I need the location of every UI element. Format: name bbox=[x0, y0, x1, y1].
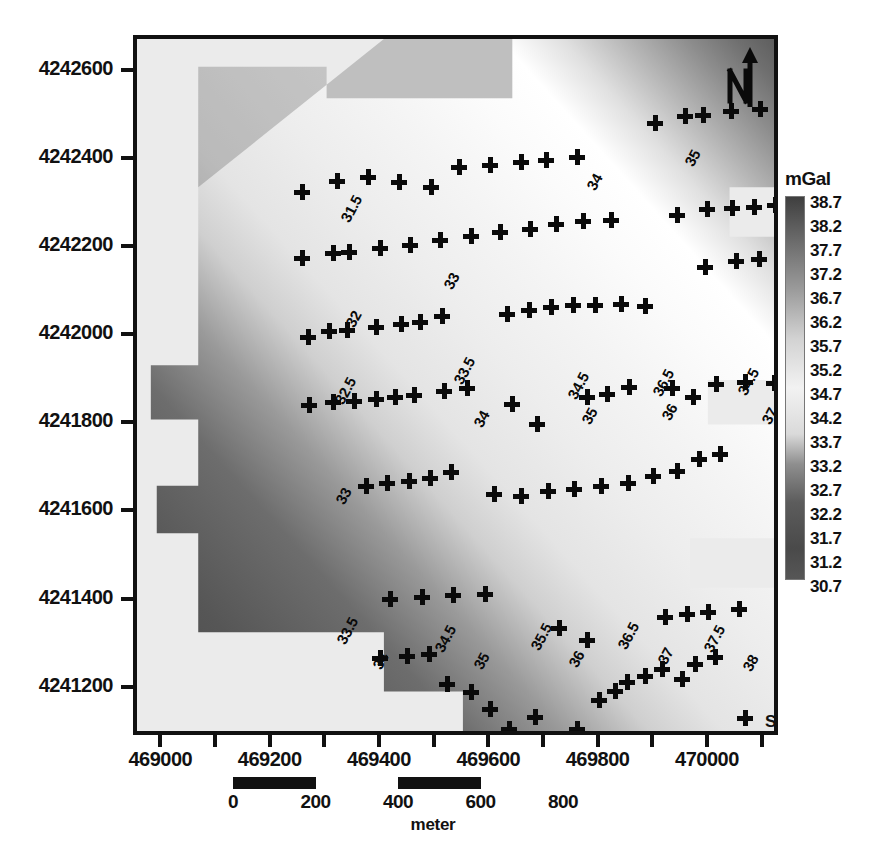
colorbar-gradient-swatch bbox=[785, 196, 805, 580]
y-axis-tick bbox=[121, 597, 133, 601]
x-axis-tick bbox=[760, 735, 764, 747]
scale-bar-unit: meter bbox=[383, 815, 483, 835]
colorbar-tick-label: 32.2 bbox=[810, 503, 870, 527]
y-axis-tick bbox=[121, 68, 133, 72]
x-axis-tick-label: 469800 bbox=[538, 748, 658, 771]
colorbar-tick-label: 36.2 bbox=[810, 311, 870, 335]
y-axis-tick bbox=[121, 508, 133, 512]
y-axis-tick-label: 4241600 bbox=[39, 497, 113, 520]
north-arrow-icon bbox=[720, 41, 766, 111]
y-axis-tick bbox=[121, 244, 133, 248]
x-axis-tick bbox=[596, 735, 600, 747]
station-marker-icon bbox=[542, 731, 558, 735]
x-axis-tick bbox=[268, 735, 272, 747]
scale-bar-label: 800 bbox=[523, 791, 603, 813]
x-axis-tick bbox=[650, 735, 654, 747]
colorbar-tick-label: 35.7 bbox=[810, 335, 870, 359]
y-axis-tick-label: 4242600 bbox=[39, 57, 113, 80]
x-axis-tick bbox=[486, 735, 490, 747]
map-plot-area[interactable]: 31.5323334353633.534.53536.53634.537.532… bbox=[133, 35, 778, 735]
colorbar-tick-label: 38.2 bbox=[810, 215, 870, 239]
y-axis-tick-label: 4241200 bbox=[39, 674, 113, 697]
y-axis-tick-label: 4241400 bbox=[39, 586, 113, 609]
y-axis-tick bbox=[121, 156, 133, 160]
x-axis-tick bbox=[158, 735, 162, 747]
legend-label: Station Location bbox=[765, 712, 778, 732]
x-axis-tick bbox=[213, 735, 217, 747]
colorbar-tick-label: 34.2 bbox=[810, 407, 870, 431]
colorbar-tick-label: 31.2 bbox=[810, 551, 870, 575]
scale-bar: meter 0200400600800 bbox=[233, 777, 563, 835]
colorbar-tick-label: 30.7 bbox=[810, 575, 870, 599]
x-axis-tick-label: 469200 bbox=[210, 748, 330, 771]
x-axis-tick-label: 469400 bbox=[319, 748, 439, 771]
colorbar-title: mGal bbox=[785, 168, 831, 190]
colorbar-tick-label: 32.7 bbox=[810, 479, 870, 503]
x-axis-tick-label: 469600 bbox=[428, 748, 548, 771]
y-axis-tick-label: 4242000 bbox=[39, 321, 113, 344]
x-axis-tick-label: 469000 bbox=[100, 748, 220, 771]
colorbar-tick-label: 37.7 bbox=[810, 239, 870, 263]
colorbar-tick-label: 38.7 bbox=[810, 191, 870, 215]
scale-bar-label: 200 bbox=[276, 791, 356, 813]
colorbar-tick-label: 36.7 bbox=[810, 287, 870, 311]
colorbar-tick-label: 31.7 bbox=[810, 527, 870, 551]
x-axis-tick bbox=[705, 735, 709, 747]
colorbar-tick-label: 33.7 bbox=[810, 431, 870, 455]
scale-bar-segment bbox=[233, 777, 316, 789]
y-axis-tick-label: 4242200 bbox=[39, 233, 113, 256]
colorbar: mGal 38.738.237.737.236.736.235.735.234.… bbox=[783, 168, 831, 196]
scale-bar-label: 600 bbox=[441, 791, 521, 813]
y-axis-tick bbox=[121, 332, 133, 336]
y-axis-tick-label: 4242400 bbox=[39, 145, 113, 168]
gravity-anomaly-raster bbox=[137, 39, 774, 731]
x-axis-tick-label: 470000 bbox=[647, 748, 767, 771]
scale-bar-label: 0 bbox=[193, 791, 273, 813]
colorbar-tick-label: 33.2 bbox=[810, 455, 870, 479]
y-axis-tick-label: 4241800 bbox=[39, 409, 113, 432]
x-axis-tick bbox=[432, 735, 436, 747]
colorbar-tick-labels: 38.738.237.737.236.736.235.735.234.734.2… bbox=[810, 191, 870, 599]
x-axis-tick bbox=[322, 735, 326, 747]
scale-bar-segment bbox=[398, 777, 481, 789]
x-axis-tick bbox=[377, 735, 381, 747]
colorbar-tick-label: 34.7 bbox=[810, 383, 870, 407]
x-axis-tick bbox=[541, 735, 545, 747]
colorbar-tick-label: 37.2 bbox=[810, 263, 870, 287]
y-axis-tick bbox=[121, 685, 133, 689]
scale-bar-label: 400 bbox=[358, 791, 438, 813]
y-axis-tick bbox=[121, 420, 133, 424]
colorbar-tick-label: 35.2 bbox=[810, 359, 870, 383]
